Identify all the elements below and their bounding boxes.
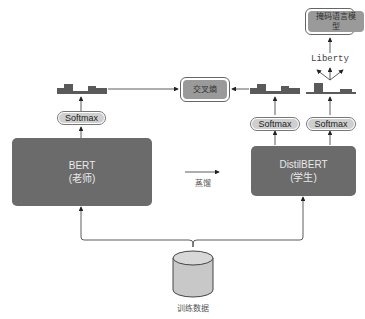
teacher-name: BERT: [69, 159, 96, 172]
mlm-softmax-node: Softmax: [306, 117, 356, 131]
student-histogram-icon: [250, 84, 300, 94]
cross-entropy-label: 交叉熵: [183, 80, 227, 99]
predicted-token: Liberty: [305, 54, 355, 64]
training-data-label: 训练数据: [168, 302, 218, 313]
cross-entropy-box: 交叉熵: [180, 77, 230, 102]
teacher-role: (老师): [69, 172, 96, 185]
softmax-label: Softmax: [59, 113, 104, 123]
student-softmax-node: Softmax: [250, 117, 300, 131]
database-cylinder-icon: [173, 251, 213, 297]
softmax-label: Softmax: [252, 119, 298, 129]
distillation-label: 蒸馏: [188, 177, 218, 188]
teacher-model-box: BERT (老师): [12, 138, 152, 206]
teacher-histogram-icon: [57, 84, 107, 94]
softmax-label: Softmax: [308, 119, 354, 129]
student-model-box: DistilBERT (学生): [251, 146, 356, 196]
student-name: DistilBERT: [279, 158, 327, 171]
mlm-label: 掩码语言模型: [308, 11, 364, 32]
student-role: (学生): [290, 171, 317, 184]
mlm-histogram-icon: [306, 83, 356, 94]
teacher-softmax-node: Softmax: [57, 111, 106, 125]
mlm-box: 掩码语言模型: [305, 8, 355, 35]
